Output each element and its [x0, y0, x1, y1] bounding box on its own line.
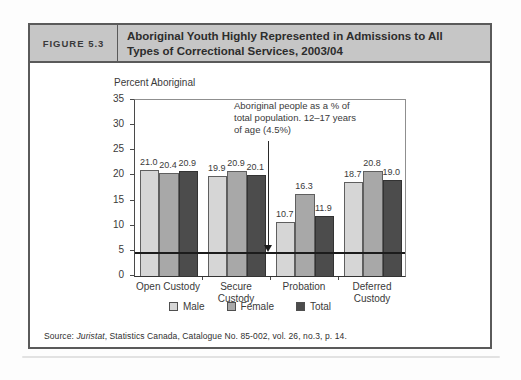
annotation-text: Aboriginal people as a % of total popula…	[234, 100, 356, 136]
bar-value-label: 20.1	[242, 162, 268, 172]
figure-box: FIGURE 5.3 Aboriginal Youth Highly Repre…	[28, 23, 492, 349]
figure-label: FIGURE 5.3	[30, 25, 118, 61]
y-axis-tick-label: 10	[102, 219, 124, 230]
bar-total-probation	[315, 216, 334, 276]
bar-total-secure-custody	[247, 175, 266, 276]
bar-total-deferred-custody	[383, 180, 402, 276]
x-category-label: Open Custody	[131, 281, 205, 293]
y-axis-tick	[130, 174, 134, 175]
bar-male-secure-custody	[208, 176, 227, 276]
y-axis-tick	[130, 200, 134, 201]
bar-female-deferred-custody	[363, 171, 382, 276]
source-note: Source: Juristat, Statistics Canada, Cat…	[44, 331, 347, 341]
x-axis-tick	[202, 277, 203, 280]
source-rest: , Statistics Canada, Catalogue No. 85-00…	[105, 331, 347, 341]
y-axis-tick-label: 5	[102, 244, 124, 255]
reference-line-4-5-percent	[135, 252, 405, 254]
y-axis-tick-label: 0	[102, 269, 124, 280]
y-axis-title: Percent Aboriginal	[114, 77, 195, 88]
y-axis-tick	[130, 124, 134, 125]
x-category-label: SecureCustody	[199, 281, 273, 304]
bar-value-label: 20.9	[174, 158, 200, 168]
x-axis-tick	[338, 277, 339, 280]
y-axis-tick-label: 25	[102, 143, 124, 154]
bar-male-open-custody	[140, 170, 159, 276]
y-axis-tick	[130, 275, 134, 276]
figure-title: Aboriginal Youth Highly Represented in A…	[118, 25, 490, 61]
source-publication: Juristat	[76, 331, 104, 341]
y-axis-tick	[130, 250, 134, 251]
legend-label-total: Total	[310, 301, 331, 312]
annotation-line-1: Aboriginal people as a % of	[234, 100, 356, 112]
y-axis-tick	[130, 99, 134, 100]
y-axis-tick	[130, 225, 134, 226]
y-axis-tick-label: 35	[102, 93, 124, 104]
page-shadow	[22, 356, 500, 358]
bar-value-label: 18.7	[340, 169, 366, 179]
bar-value-label: 10.7	[272, 209, 298, 219]
x-category-label: Probation	[267, 281, 341, 293]
chart-region: Percent Aboriginal Aboriginal people as …	[30, 63, 490, 349]
y-axis-tick-label: 15	[102, 194, 124, 205]
y-axis-tick-label: 30	[102, 118, 124, 129]
bar-total-open-custody	[179, 171, 198, 276]
bar-female-secure-custody	[227, 171, 246, 276]
annotation-line-2: total population. 12–17 years	[234, 112, 356, 124]
annotation-arrow-line	[268, 141, 269, 246]
male-swatch-icon	[169, 302, 178, 311]
bar-value-label: 11.9	[310, 203, 336, 213]
annotation-line-3: of age (4.5%)	[234, 124, 356, 136]
bar-male-probation	[276, 222, 295, 276]
legend-item-total: Total	[296, 301, 331, 312]
x-axis-tick	[270, 277, 271, 280]
y-axis-tick-label: 20	[102, 168, 124, 179]
x-category-label: DeferredCustody	[335, 281, 409, 304]
bar-female-open-custody	[159, 173, 178, 276]
annotation-arrow-head-icon	[264, 245, 272, 252]
bar-value-label: 19.0	[378, 167, 404, 177]
bar-male-deferred-custody	[344, 182, 363, 276]
figure-header: FIGURE 5.3 Aboriginal Youth Highly Repre…	[30, 25, 490, 63]
bar-value-label: 16.3	[291, 181, 317, 191]
y-axis-tick	[130, 149, 134, 150]
total-swatch-icon	[296, 302, 305, 311]
source-prefix: Source:	[44, 331, 76, 341]
